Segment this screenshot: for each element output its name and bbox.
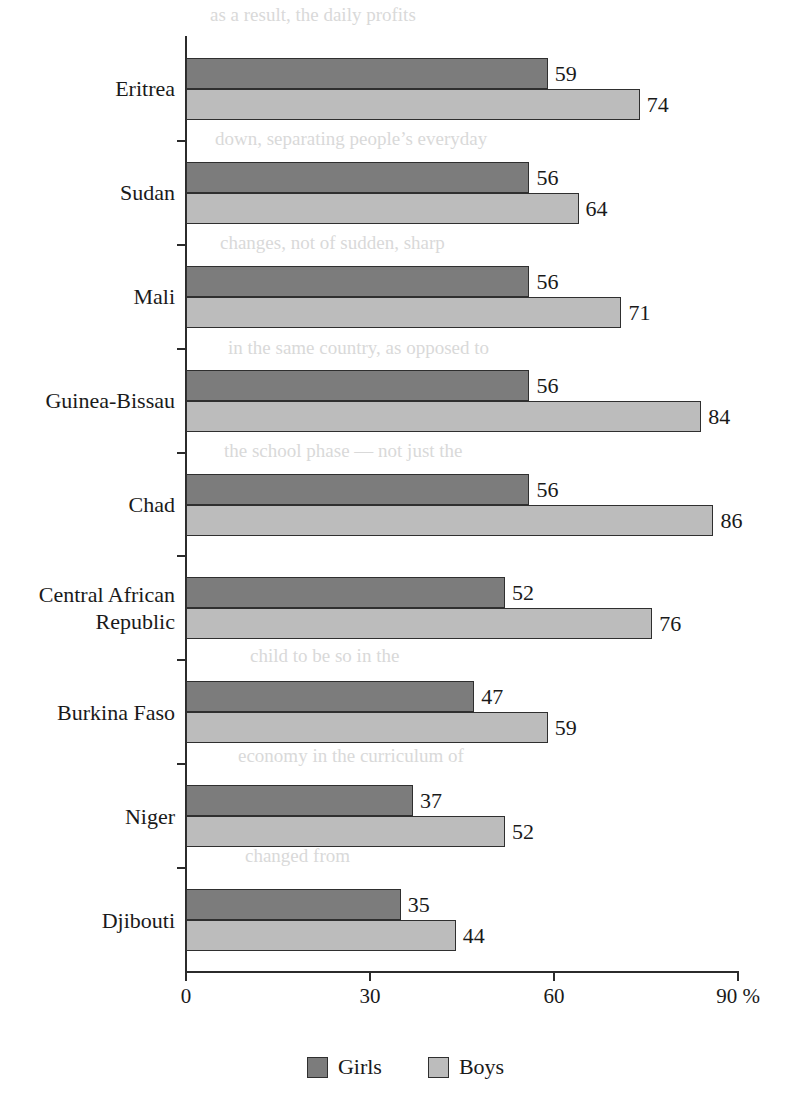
bar-boys xyxy=(186,297,621,328)
y-axis-tick xyxy=(177,867,186,869)
bar-girls xyxy=(186,162,529,193)
bar-boys xyxy=(186,193,579,224)
bar-boys xyxy=(186,712,548,743)
x-axis-tick-label: 0 xyxy=(141,984,231,1008)
category-label: Mali xyxy=(0,283,175,310)
bar-value-label: 56 xyxy=(536,267,558,296)
bar-boys xyxy=(186,816,505,847)
chart-legend: Girls Boys xyxy=(0,1055,811,1079)
bar-girls xyxy=(186,577,505,608)
page-bleed-line: as a result, the daily profits xyxy=(210,4,416,26)
x-axis-tick xyxy=(369,971,371,981)
legend-label-boys: Boys xyxy=(459,1055,504,1079)
x-axis-tick xyxy=(553,971,555,981)
bar-value-label: 71 xyxy=(628,298,650,327)
bar-value-label: 52 xyxy=(512,578,534,607)
bar-value-label: 56 xyxy=(536,475,558,504)
x-axis-tick-label: 60 xyxy=(509,984,599,1008)
legend-swatch-boys xyxy=(428,1057,449,1078)
bar-girls xyxy=(186,266,529,297)
legend-swatch-girls xyxy=(307,1057,328,1078)
bar-value-label: 47 xyxy=(481,682,503,711)
x-axis-tick xyxy=(185,971,187,981)
bar-group: 5684 xyxy=(186,370,738,432)
bar-girls xyxy=(186,681,474,712)
bar-value-label: 52 xyxy=(512,817,534,846)
bar-boys xyxy=(186,920,456,951)
category-label: Sudan xyxy=(0,179,175,206)
category-label: Niger xyxy=(0,803,175,830)
y-axis-tick xyxy=(177,555,186,557)
y-axis-tick xyxy=(177,763,186,765)
plot-area: 597456645671568456865276475937523544 xyxy=(186,37,738,972)
bar-group: 5671 xyxy=(186,266,738,328)
y-axis-tick xyxy=(177,140,186,142)
bar-girls xyxy=(186,370,529,401)
legend-item-boys: Boys xyxy=(428,1055,504,1079)
category-label: Chad xyxy=(0,491,175,518)
y-axis-tick xyxy=(177,452,186,454)
bar-girls xyxy=(186,785,413,816)
bar-group: 5276 xyxy=(186,577,738,639)
bar-group: 5664 xyxy=(186,162,738,224)
bar-value-label: 84 xyxy=(708,402,730,431)
bar-value-label: 76 xyxy=(659,609,681,638)
bar-group: 3544 xyxy=(186,889,738,951)
bar-value-label: 64 xyxy=(586,194,608,223)
bar-girls xyxy=(186,474,529,505)
bar-boys xyxy=(186,505,713,536)
bar-value-label: 59 xyxy=(555,713,577,742)
bar-value-label: 56 xyxy=(536,163,558,192)
category-label: Burkina Faso xyxy=(0,699,175,726)
category-label: Djibouti xyxy=(0,907,175,934)
y-axis-tick xyxy=(177,659,186,661)
x-axis-tick-label: 90 % xyxy=(693,984,783,1008)
bar-group: 5686 xyxy=(186,474,738,536)
y-axis-tick xyxy=(177,348,186,350)
bar-value-label: 35 xyxy=(408,890,430,919)
x-axis-tick-label: 30 xyxy=(325,984,415,1008)
category-label: Guinea-Bissau xyxy=(0,387,175,414)
bar-value-label: 37 xyxy=(420,786,442,815)
bar-group: 3752 xyxy=(186,785,738,847)
bar-girls xyxy=(186,58,548,89)
category-label: Central African Republic xyxy=(0,581,175,635)
legend-label-girls: Girls xyxy=(338,1055,382,1079)
bar-value-label: 59 xyxy=(555,59,577,88)
bar-group: 5974 xyxy=(186,58,738,120)
bar-value-label: 44 xyxy=(463,921,485,950)
bar-boys xyxy=(186,401,701,432)
legend-item-girls: Girls xyxy=(307,1055,382,1079)
horizontal-bar-chart: as a result, the daily profits down, sep… xyxy=(0,0,811,1115)
bar-value-label: 56 xyxy=(536,371,558,400)
bar-boys xyxy=(186,608,652,639)
bar-value-label: 86 xyxy=(720,506,742,535)
bar-girls xyxy=(186,889,401,920)
y-axis-tick xyxy=(177,244,186,246)
category-label: Eritrea xyxy=(0,75,175,102)
bar-value-label: 74 xyxy=(647,90,669,119)
x-axis-tick xyxy=(737,971,739,981)
bar-group: 4759 xyxy=(186,681,738,743)
bar-boys xyxy=(186,89,640,120)
